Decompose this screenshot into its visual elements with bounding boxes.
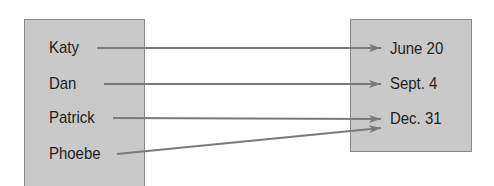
mapping-arrows: [0, 0, 494, 186]
arrow-phoebe-to-dec-31: [117, 128, 381, 154]
arrow-patrick-to-dec-31: [113, 118, 381, 119]
